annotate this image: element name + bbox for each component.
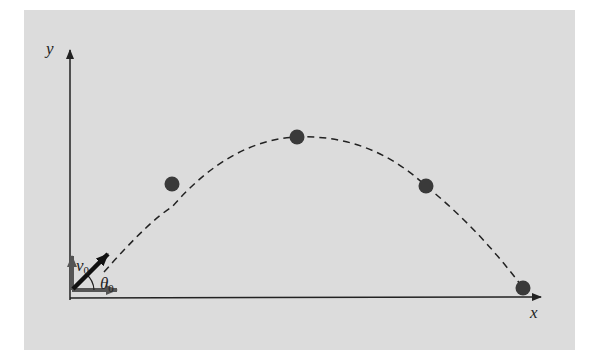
x-axis <box>70 297 541 298</box>
projectile-dot <box>290 130 305 145</box>
projectile-dot <box>165 177 180 192</box>
projectile-dot <box>419 179 434 194</box>
trajectory-curve <box>104 137 523 288</box>
x-axis-label: x <box>530 304 538 321</box>
y-axis-label: y <box>46 40 54 57</box>
angle-subscript: 0 <box>108 282 114 294</box>
angle-label: θ0 <box>100 275 114 294</box>
projectile-dot <box>516 281 531 296</box>
velocity-label: v0 <box>76 257 89 276</box>
velocity-subscript: 0 <box>84 264 90 276</box>
velocity-symbol: v <box>76 256 84 275</box>
projectile-diagram <box>0 0 605 358</box>
